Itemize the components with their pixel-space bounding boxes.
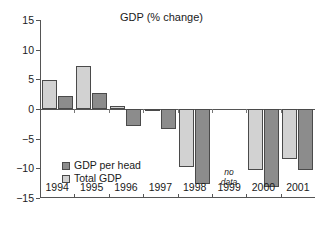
bar-total-gdp [145,109,160,111]
legend-item-gdp-per-head: GDP per head [62,159,141,172]
x-axis-tick [212,194,213,198]
bar-gdp-per-head [161,109,176,129]
bar-total-gdp [179,109,194,167]
x-axis-tick [109,194,110,198]
no-data-annotation-line-2: data [221,178,238,188]
bar-total-gdp [110,106,125,109]
legend-label-gdp-per-head: GDP per head [74,160,141,171]
y-axis-label: −10 [16,163,34,174]
y-axis-tick [36,168,40,169]
x-axis-tick [281,194,282,198]
zero-line-tick [74,109,75,113]
bar-total-gdp [76,66,91,109]
bar-total-gdp [42,80,57,109]
x-axis-label: 1997 [149,182,172,193]
x-axis-label: 1994 [46,182,69,193]
x-axis-label: 1996 [114,182,137,193]
x-axis-tick [178,194,179,198]
y-axis-tick [36,109,40,110]
x-axis-label: 2001 [286,182,309,193]
y-axis-label: −15 [16,193,34,204]
y-axis-label: 15 [22,15,34,26]
bar-total-gdp [248,109,263,170]
legend-swatch-icon-gdp-per-head [62,162,70,170]
zero-line-tick [212,109,213,113]
y-axis-tick [36,139,40,140]
bar-gdp-per-head [195,109,210,184]
bar-gdp-per-head [126,109,141,126]
y-axis-label: 0 [28,104,34,115]
y-axis-tick [36,198,40,199]
y-axis-label: 5 [28,74,34,85]
bar-gdp-per-head [298,109,313,170]
x-axis-tick [246,194,247,198]
gdp-percent-change-chart: GDP (% change) 151050−5−10−15 GDP per he… [0,0,323,229]
y-axis-tick [36,50,40,51]
bar-gdp-per-head [92,93,107,109]
no-data-annotation: nodata [221,168,238,188]
x-axis-label: 1998 [183,182,206,193]
y-axis-tick [36,20,40,21]
bar-gdp-per-head [58,96,73,109]
x-axis-label: 1995 [80,182,103,193]
bar-gdp-per-head [264,109,279,187]
y-axis-tick [36,79,40,80]
x-axis-tick [143,194,144,198]
x-axis-label: 2000 [252,182,275,193]
y-axis-label: −5 [22,133,34,144]
y-axis-label: 10 [22,44,34,55]
zero-line-tick [109,109,110,113]
x-axis-tick [74,194,75,198]
bar-total-gdp [282,109,297,159]
